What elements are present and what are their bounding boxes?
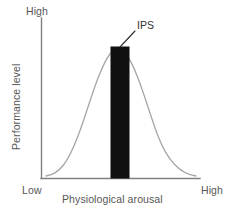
chart-canvas: IPS High Low Performance level High Phys… [0,0,235,209]
ips-annotation-label: IPS [137,19,154,31]
ips-band [111,47,130,179]
y-axis-low-label: Low [22,184,42,196]
ips-leader-line [120,31,135,47]
x-axis-high-label: High [201,184,223,196]
chart-figure: IPS High Low Performance level High Phys… [0,0,235,209]
y-axis-title: Performance level [10,64,22,150]
y-axis-high-label: High [26,5,48,17]
x-axis-title: Physiological arousal [62,193,163,205]
